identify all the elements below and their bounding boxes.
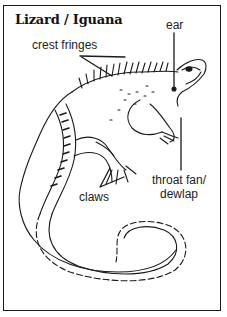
label-throat-line2: dewlap (152, 187, 206, 201)
diagram-title: Lizard / Iguana (15, 12, 123, 27)
label-ear: ear (166, 18, 183, 32)
label-throat-line1: throat fan/ (152, 173, 206, 187)
label-claws: claws (79, 190, 109, 204)
label-crest-fringes: crest fringes (32, 38, 97, 52)
label-throat-fan: throat fan/ dewlap (152, 173, 206, 201)
